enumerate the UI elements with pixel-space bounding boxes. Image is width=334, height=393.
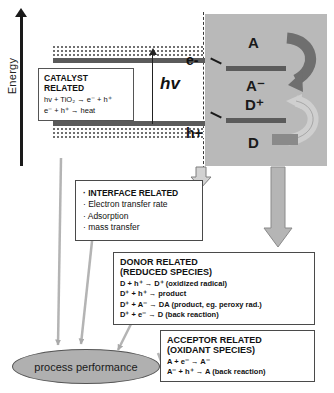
conduction-band-dotted-level-2 [53, 50, 205, 52]
valence-band-dotted-level-2 [53, 132, 205, 134]
donor-reaction: D⁺ + e⁻ → D (back reaction) [120, 310, 309, 319]
process-performance-ellipse: process performance [12, 349, 160, 384]
species-label-donor: D [248, 134, 259, 151]
interface-line: · mass transfer [83, 222, 196, 232]
energy-axis-line [20, 14, 23, 166]
catalyst-related-box: CATALYST RELATED hv + TiO₂ → e⁻ + h⁺ e⁻ … [38, 68, 134, 121]
catalyst-equation: hv + TiO₂ → e⁻ + h⁺ [44, 95, 128, 104]
donor-box-title: DONOR RELATED [120, 257, 309, 267]
acceptor-box-subtitle: (OXIDANT SPECIES) [167, 345, 309, 355]
donor-reaction: D + h⁺ → D⁺ (oxidized radical) [120, 279, 309, 288]
diagram-canvas: Energy hv e- h+ CATALYST RELATED hv + Ti… [0, 0, 334, 393]
energy-axis-label: Energy [6, 46, 18, 106]
interface-related-box: · INTERFACE RELATED · Electron transfer … [75, 180, 203, 241]
panel-divider-dashed-line [203, 12, 204, 169]
process-performance-label: process performance [34, 361, 137, 373]
hole-label: h+ [186, 125, 203, 141]
species-label-acceptor: A [248, 34, 259, 51]
acceptor-box-title: ACCEPTOR RELATED [167, 335, 309, 345]
acceptor-reaction: A⁻ + h⁺ → A (back reaction) [167, 367, 309, 376]
photon-energy-label: hv [160, 74, 180, 94]
reaction-panel [205, 14, 327, 166]
donor-level-bar [226, 118, 286, 123]
donor-box-subtitle: (REDUCED SPECIES) [120, 267, 309, 277]
catalyst-box-title: CATALYST RELATED [44, 73, 128, 93]
interface-line: · Adsorption [83, 211, 196, 221]
conduction-band-dotted-level-1 [53, 46, 205, 48]
block-arrow-to-species-boxes [264, 167, 292, 247]
connector-catalyst-to-outcome [58, 158, 61, 345]
valence-band-dotted-level-1 [53, 128, 205, 130]
species-label-acceptor-radical: A⁻ [246, 77, 265, 95]
acceptor-level-bar [226, 66, 286, 71]
connector-interface-to-outcome [81, 232, 93, 344]
interface-line: · Electron transfer rate [83, 199, 196, 209]
valence-band-dotted-level-3 [53, 136, 205, 138]
interface-line: · INTERFACE RELATED [83, 188, 196, 198]
conduction-band-dotted-level-3 [53, 54, 205, 56]
electron-label: e- [186, 52, 198, 68]
catalyst-equation: e⁻ + h⁺ → heat [44, 106, 128, 115]
donor-related-box: DONOR RELATED (REDUCED SPECIES) D + h⁺ →… [113, 252, 315, 325]
donor-reaction: D⁺ + h⁺ → product [120, 289, 309, 298]
photon-excitation-arrow-shaft [152, 52, 153, 124]
species-label-donor-cation: D⁺ [245, 96, 264, 114]
acceptor-reaction: A + e⁻ → A⁻ [167, 357, 309, 366]
photon-excitation-arrowhead-icon [149, 48, 157, 55]
valence-band-edge [53, 121, 205, 126]
acceptor-related-box: ACCEPTOR RELATED (OXIDANT SPECIES) A + e… [160, 330, 315, 382]
donor-reaction: D⁺ + A⁻ → DA (product, eg. peroxy rad.) [120, 300, 309, 309]
conduction-band-edge [53, 58, 205, 63]
